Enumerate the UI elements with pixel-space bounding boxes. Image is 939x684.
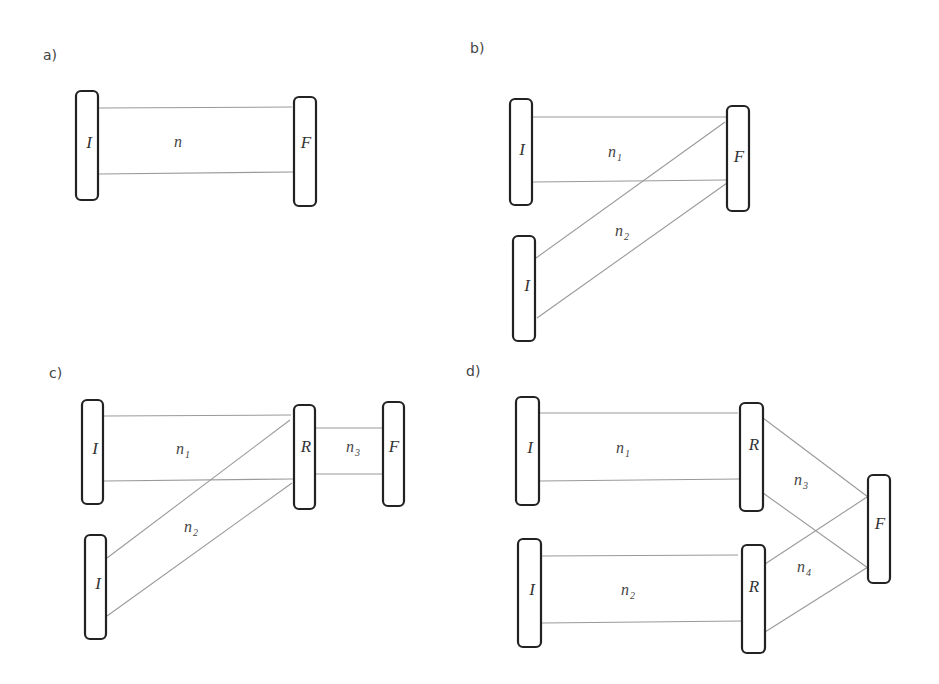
edge-b-i2-f-bottom <box>537 183 727 318</box>
edge-c-i1-r-top <box>104 415 291 416</box>
diagram-canvas: a) I F n b) I I F n1 n2 <box>0 0 939 684</box>
edge-label-sub: 1 <box>185 449 190 460</box>
edge-d-r2-f-top <box>765 497 867 564</box>
node-label: F <box>388 437 400 456</box>
node-c-initial-1: I <box>82 400 103 504</box>
edge-label-base: n <box>174 133 182 150</box>
edge-label-base: n <box>621 581 629 598</box>
edge-c-i2-r-top <box>107 420 290 558</box>
node-label: R <box>748 577 760 596</box>
edge-label-sub: 4 <box>806 567 811 578</box>
edge-label-n1: n1 <box>608 143 622 163</box>
node-b-initial-2: I <box>513 236 535 341</box>
node-label: F <box>733 147 745 166</box>
node-d-initial-1: I <box>516 397 539 505</box>
node-box <box>294 405 315 509</box>
node-d-relay-2: R <box>742 545 765 653</box>
edge-label-sub: 2 <box>624 231 629 242</box>
panel-label-a: a) <box>43 47 57 63</box>
edge-label-base: n <box>615 222 623 239</box>
panel-label-d: d) <box>466 363 480 379</box>
node-box <box>742 545 765 653</box>
edge-d-i1-r1-bottom <box>540 479 740 481</box>
node-label: F <box>300 133 312 152</box>
edge-label-base: n <box>797 558 805 575</box>
edge-label-sub: 2 <box>193 527 198 538</box>
edge-label-n2: n2 <box>621 581 635 601</box>
node-d-relay-1: R <box>740 403 763 511</box>
edge-label-sub: 3 <box>354 447 360 458</box>
edge-b-i1-f-bottom <box>533 180 726 182</box>
edge-label-n4: n4 <box>797 558 811 578</box>
panel-b: b) I I F n1 n2 <box>470 40 749 341</box>
edge-label-n1: n1 <box>176 440 190 460</box>
edge-a-i-f-bottom <box>98 172 294 174</box>
node-label: R <box>748 435 760 454</box>
edge-label-base: n <box>184 518 192 535</box>
node-c-relay: R <box>294 405 315 509</box>
edge-label-base: n <box>608 143 616 160</box>
panel-a: a) I F n <box>43 47 316 206</box>
node-b-initial-1: I <box>510 99 532 205</box>
node-d-final: F <box>868 475 890 583</box>
node-label: F <box>874 514 886 533</box>
node-d-initial-2: I <box>518 539 541 647</box>
edge-label-sub: 3 <box>802 480 808 491</box>
edge-label-n1: n1 <box>616 439 630 459</box>
node-label: R <box>300 437 312 456</box>
edge-label-n3: n3 <box>346 438 360 458</box>
edge-label-n: n <box>174 133 182 150</box>
panel-label-c: c) <box>49 365 62 381</box>
edge-d-i2-r2-top <box>542 555 738 556</box>
edge-label-n3: n3 <box>794 471 808 491</box>
edge-c-i1-r-bottom <box>104 479 293 481</box>
node-box <box>740 403 763 511</box>
edge-label-base: n <box>616 439 624 456</box>
edge-label-sub: 2 <box>630 590 635 601</box>
panel-c: c) I I R F n1 n2 n3 <box>49 365 404 639</box>
edge-d-r2-f-bottom <box>765 567 868 632</box>
edge-b-i2-f-top <box>536 122 725 258</box>
edge-label-base: n <box>346 438 354 455</box>
panel-d: d) I I R R F n1 n2 n3 n4 <box>466 363 890 653</box>
edge-label-base: n <box>794 471 802 488</box>
edge-d-i2-r2-bottom <box>542 621 742 623</box>
edge-label-base: n <box>176 440 184 457</box>
edge-label-sub: 1 <box>625 448 630 459</box>
panel-label-b: b) <box>470 40 484 56</box>
node-a-final: F <box>294 97 316 206</box>
edge-label-n2: n2 <box>615 222 629 242</box>
node-c-initial-2: I <box>85 535 106 639</box>
edge-label-sub: 1 <box>617 152 622 163</box>
edge-a-i-f-top <box>98 107 292 108</box>
node-b-final: F <box>727 106 749 211</box>
edge-label-n2: n2 <box>184 518 198 538</box>
edge-c-i2-r-bottom <box>107 483 292 616</box>
node-a-initial: I <box>76 91 98 200</box>
edge-d-r1-f-top <box>763 418 868 497</box>
node-c-final: F <box>383 402 404 506</box>
